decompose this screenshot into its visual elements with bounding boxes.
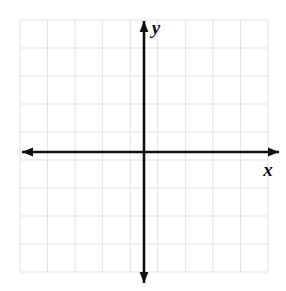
y-axis-label: y xyxy=(150,17,161,38)
coordinate-plane-svg: x y xyxy=(0,0,286,291)
coordinate-plane-figure: x y xyxy=(0,0,286,291)
x-axis-label: x xyxy=(262,159,273,180)
